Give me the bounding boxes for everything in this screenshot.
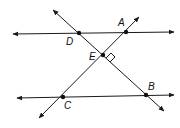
top-parallel-line xyxy=(13,32,174,34)
geometry-diagram: A D E C B xyxy=(0,0,180,128)
label-A: A xyxy=(117,17,125,28)
point-B xyxy=(144,93,148,97)
point-A xyxy=(124,30,128,34)
right-angle-marker xyxy=(106,53,115,62)
point-D xyxy=(77,31,81,35)
bottom-parallel-line xyxy=(17,95,174,98)
label-D: D xyxy=(66,36,73,47)
label-B: B xyxy=(148,81,155,92)
point-E xyxy=(101,53,105,57)
label-E: E xyxy=(89,51,96,62)
label-C: C xyxy=(64,100,72,111)
point-C xyxy=(61,95,65,99)
